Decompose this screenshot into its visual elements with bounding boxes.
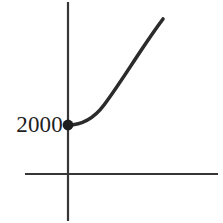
y-intercept-dot	[63, 120, 74, 131]
growth-curve	[68, 19, 163, 125]
graph-figure: 2000	[0, 0, 223, 223]
y-intercept-label: 2000	[11, 111, 63, 138]
